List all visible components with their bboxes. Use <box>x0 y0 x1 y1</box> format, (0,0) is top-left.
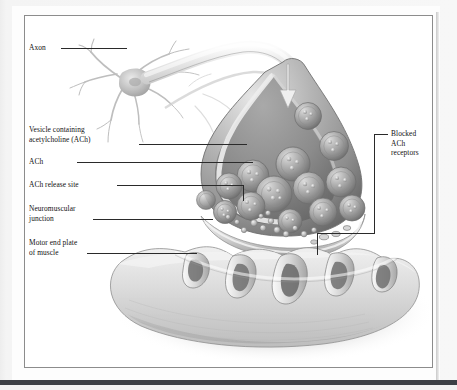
leader-vesicle <box>139 144 247 145</box>
leader-release-site <box>117 185 243 186</box>
label-neuromuscular-junction: Neuromuscular junction <box>29 204 76 223</box>
leader-release-site-drop <box>243 185 244 201</box>
leader-blocked-bottom <box>317 233 375 234</box>
label-blocked-ach-receptors: Blocked ACh receptors <box>391 129 419 158</box>
leader-end-plate <box>87 253 197 254</box>
neuromuscular-junction-illustration <box>25 16 432 367</box>
page-background: Axon Vesicle containing acetylcholine (A… <box>0 0 457 390</box>
leader-blocked-drop <box>317 233 318 255</box>
plate-shadow-right <box>436 12 439 384</box>
label-ach-release-site: ACh release site <box>29 180 79 190</box>
leader-blocked-top <box>374 134 388 135</box>
leader-ach <box>77 162 253 163</box>
figure-frame: Axon Vesicle containing acetylcholine (A… <box>24 15 433 368</box>
leader-nmj <box>93 219 213 220</box>
leader-axon <box>61 48 127 49</box>
leader-blocked-stem <box>374 134 375 234</box>
page-bottom-margin <box>0 385 457 390</box>
label-axon: Axon <box>29 43 46 53</box>
label-ach: ACh <box>29 157 43 167</box>
label-motor-end-plate: Motor end plate of muscle <box>29 238 77 257</box>
synaptic-bulb <box>197 59 366 259</box>
label-vesicle: Vesicle containing acetylcholine (ACh) <box>29 125 91 144</box>
